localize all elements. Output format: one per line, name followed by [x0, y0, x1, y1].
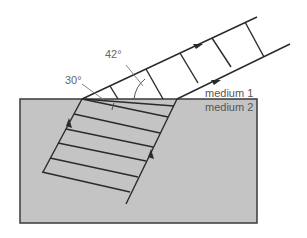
medium-1-label: medium 1 [205, 87, 253, 99]
leader-line-42 [126, 65, 143, 86]
medium-2-label: medium 2 [205, 101, 253, 113]
medium-2-region [20, 99, 257, 223]
arrow-right-icon [193, 44, 203, 49]
arrow-right-icon [211, 80, 221, 85]
angle-label-30: 30° [65, 74, 82, 86]
refraction-diagram: 30° 42° medium 1 medium 2 [0, 0, 307, 238]
wavefront [146, 69, 163, 99]
angle-label-42: 42° [105, 48, 122, 60]
wavefront [212, 38, 231, 67]
wavefront [110, 86, 118, 99]
wavefront [180, 53, 198, 83]
wavefront [245, 22, 264, 57]
